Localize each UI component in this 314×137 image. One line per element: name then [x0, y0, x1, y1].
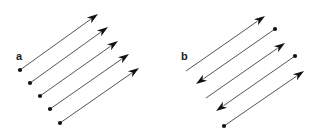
arrowhead-icon — [216, 102, 227, 111]
arrowhead-icon — [118, 54, 129, 63]
arrowhead-icon — [254, 16, 265, 25]
arrowhead-icon — [128, 68, 139, 77]
tail-dot-icon — [48, 107, 52, 111]
arrow-diagram: a b — [0, 0, 314, 137]
arrow-b-5 — [222, 71, 304, 128]
tail-dot-icon — [38, 94, 42, 98]
arrowhead-icon — [293, 71, 304, 80]
arrows-svg — [0, 0, 314, 137]
tail-dot-icon — [18, 68, 22, 72]
arrowhead-icon — [87, 14, 98, 23]
arrowhead-icon — [274, 43, 285, 52]
tail-dot-icon — [293, 54, 297, 58]
arrowhead-icon — [196, 75, 207, 84]
tail-dot-icon — [222, 124, 226, 128]
arrow-b-3 — [206, 43, 285, 98]
panel-b-label: b — [181, 50, 188, 62]
arrowhead-icon — [107, 41, 118, 50]
panel-a-label: a — [16, 50, 22, 62]
arrowhead-icon — [97, 27, 108, 36]
tail-dot-icon — [28, 81, 32, 85]
arrow-a-4 — [48, 54, 129, 111]
arrow-a-5 — [58, 68, 139, 125]
tail-dot-icon — [58, 121, 62, 125]
tail-dot-icon — [273, 27, 277, 31]
arrow-b-1 — [186, 16, 265, 71]
